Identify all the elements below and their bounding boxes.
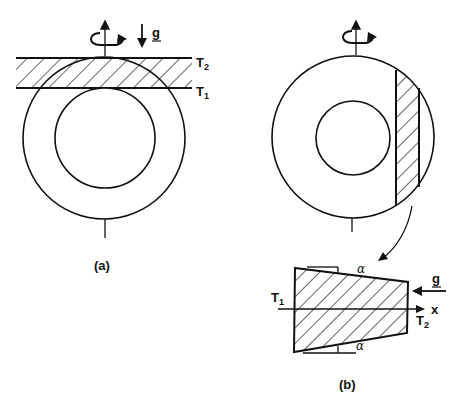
t2-label-b: T2 (416, 313, 429, 330)
gravity-arrow-icon (137, 24, 147, 48)
hatched-layer (16, 58, 192, 88)
figure-a: g T2 T1 (a) (16, 22, 209, 273)
caption-a: (a) (94, 258, 110, 273)
alpha-top-label: α (357, 262, 365, 276)
inner-circle (55, 88, 155, 188)
t1-label-b: T1 (271, 290, 284, 307)
rotation-arrow-icon-b (343, 31, 377, 43)
zoom-arrowhead (378, 252, 388, 261)
inner-circle-b (316, 101, 390, 175)
diagram-canvas: g T2 T1 (a) α (0, 0, 458, 409)
caption-b: (b) (339, 377, 356, 392)
t2-label: T2 (196, 55, 209, 72)
t1-label: T1 (196, 84, 209, 101)
gravity-arrowhead-b (412, 286, 422, 296)
gravity-label: g (152, 25, 160, 40)
gravity-label-b: g (432, 271, 440, 286)
x-axis-arrowhead (416, 305, 425, 313)
alpha-bottom-label: α (356, 339, 364, 353)
rotation-arrow-icon (91, 33, 127, 45)
trapezoid-section (294, 268, 408, 352)
zoom-curved-arrow (383, 206, 412, 258)
x-axis-label: x (431, 302, 439, 317)
figure-b: α α x g T1 T2 (b) (271, 22, 446, 392)
